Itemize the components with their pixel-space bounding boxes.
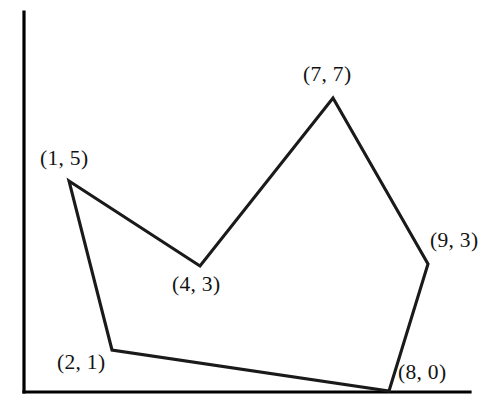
vertex-label-1-5: (1, 5) [40,148,88,170]
vertex-label-8-0: (8, 0) [398,362,446,384]
vertex-label-9-3: (9, 3) [430,230,478,252]
figure-canvas: (1, 5) (4, 3) (7, 7) (9, 3) (8, 0) (2, 1… [0,0,503,419]
vertex-label-4-3: (4, 3) [172,274,220,296]
vertex-label-2-1: (2, 1) [57,352,105,374]
polygon-outline [69,98,428,391]
vertex-label-7-7: (7, 7) [303,64,351,86]
